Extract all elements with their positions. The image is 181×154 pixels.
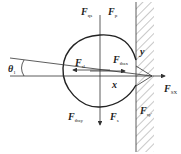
label-f-sl: Fsl [74,57,86,69]
label-f-p: Fp [107,6,118,18]
force-diagram: Fqs Fp Fsl Fthsx x y FSX Fthsy Fs Fsy′ θ… [0,0,181,154]
wall-hatching [136,2,154,152]
label-f-thsy: Fthsy [67,111,84,123]
label-f-sx: FSX [163,83,177,95]
label-f-s: Fs [109,111,119,123]
label-f-thsx: Fthsx [112,54,129,66]
label-x: x [111,79,117,90]
label-y: y [139,46,145,57]
label-f-qs: Fqs [80,6,92,18]
label-theta: θ1 [8,63,16,75]
theta-arc [22,60,25,76]
